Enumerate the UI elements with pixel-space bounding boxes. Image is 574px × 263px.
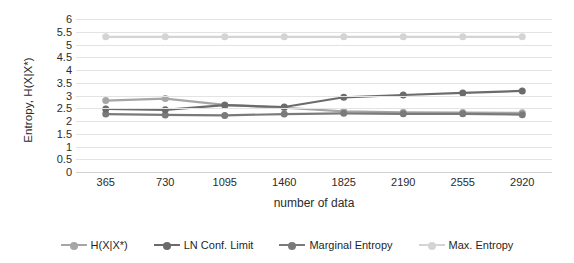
y-tick-label: 4.5 [57,52,72,62]
y-tick-label: 0.5 [57,154,72,164]
data-point [281,103,288,110]
plot-area [76,19,552,172]
legend-swatch-icon [61,240,87,250]
x-tick-label: 1095 [213,176,237,188]
y-tick-label: 3 [66,91,72,101]
data-point [102,33,109,40]
x-axis-tick-labels: 365730109514601825219025552920 [76,176,552,192]
y-tick-label: 1.5 [57,129,72,139]
x-tick-label: 365 [97,176,115,188]
x-tick-label: 2190 [391,176,415,188]
gridline [76,121,552,122]
data-point [221,33,228,40]
data-point [400,110,407,117]
x-tick-label: 1825 [332,176,356,188]
gridline [76,32,552,33]
x-tick-label: 2920 [510,176,534,188]
gridline [76,83,552,84]
gridline [76,159,552,160]
data-point [281,33,288,40]
data-point [519,33,526,40]
data-point [102,97,109,104]
data-point [281,111,288,118]
legend-item[interactable]: Max. Entropy [419,239,514,251]
y-tick-label: 2 [66,116,72,126]
x-axis-title: number of data [76,196,552,210]
y-tick-label: 2.5 [57,103,72,113]
gridline [76,108,552,109]
x-tick-label: 2555 [451,176,475,188]
legend-label: H(X|X*) [91,239,128,251]
data-point [162,33,169,40]
x-tick-label: 1460 [272,176,296,188]
y-tick-label: 6 [66,14,72,24]
legend-label: Marginal Entropy [309,239,392,251]
gridline [76,45,552,46]
data-point [519,111,526,118]
legend-swatch-icon [419,240,445,250]
data-point [459,110,466,117]
chart-legend: H(X|X*)LN Conf. LimitMarginal EntropyMax… [0,234,574,256]
y-tick-label: 0 [66,167,72,177]
legend-item[interactable]: Marginal Entropy [279,239,392,251]
legend-label: LN Conf. Limit [184,239,254,251]
legend-item[interactable]: H(X|X*) [61,239,128,251]
y-tick-label: 5 [66,40,72,50]
data-point [459,33,466,40]
gridline [76,172,552,173]
y-tick-label: 5.5 [57,27,72,37]
legend-item[interactable]: LN Conf. Limit [154,239,254,251]
gridline [76,70,552,71]
legend-swatch-icon [279,240,305,250]
gridline [76,96,552,97]
legend-label: Max. Entropy [449,239,514,251]
data-point [519,87,526,94]
data-point [400,33,407,40]
y-tick-label: 1 [66,142,72,152]
gridline [76,134,552,135]
data-point [340,33,347,40]
gridline [76,147,552,148]
gridline [76,57,552,58]
legend-swatch-icon [154,240,180,250]
gridline [76,19,552,20]
data-point [221,112,228,119]
y-tick-label: 4 [66,65,72,75]
data-point [340,110,347,117]
entropy-line-chart: Entropy, H(X|X*) 00.511.522.533.544.555.… [0,0,574,263]
x-tick-label: 730 [156,176,174,188]
y-axis-tick-labels: 00.511.522.533.544.555.56 [28,14,72,172]
y-tick-label: 3.5 [57,78,72,88]
